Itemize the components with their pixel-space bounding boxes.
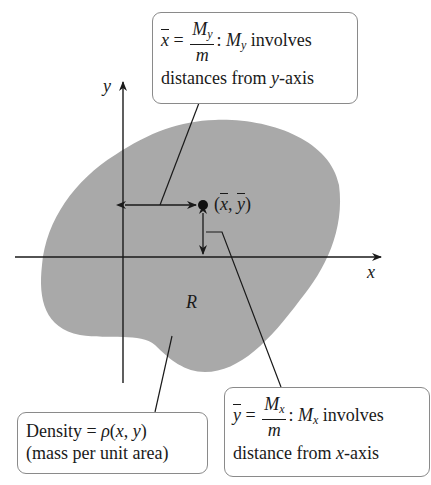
xbar-description: distances from y-axis bbox=[161, 67, 349, 89]
ybar-callout: y = Mx m : Mx involves distance from x-a… bbox=[224, 387, 430, 477]
mass-symbol: m bbox=[262, 420, 286, 440]
comma: , bbox=[124, 421, 133, 441]
density-callout: Density = ρ(x, y) (mass per unit area) bbox=[17, 412, 208, 474]
region-label: R bbox=[186, 292, 197, 313]
ybar-description: distance from x-axis bbox=[233, 442, 421, 464]
desc-var: y bbox=[271, 68, 279, 88]
involves-text: involves bbox=[318, 405, 384, 425]
centroid-point bbox=[198, 200, 208, 210]
xbar-formula: x = My m : My involves bbox=[161, 19, 349, 65]
y-axis-label: y bbox=[103, 76, 111, 97]
moment-symbol: M bbox=[192, 19, 207, 39]
xbar-callout: x = My m : My involves distances from y-… bbox=[152, 12, 358, 104]
equals-sign: = bbox=[246, 405, 256, 425]
density-description: (mass per unit area) bbox=[26, 442, 199, 464]
moment-subscript: y bbox=[207, 27, 212, 41]
desc-text: -axis bbox=[279, 68, 314, 88]
mass-symbol: m bbox=[190, 45, 214, 65]
desc-text: distance from bbox=[233, 443, 336, 463]
centroid-label: (x, y) bbox=[214, 194, 251, 215]
xbar-fraction: My m bbox=[190, 19, 214, 65]
moment-symbol: M bbox=[298, 405, 313, 425]
moment-subscript: x bbox=[279, 402, 284, 416]
moment-symbol: M bbox=[226, 30, 241, 50]
ybar-fraction: Mx m bbox=[262, 394, 286, 440]
desc-text: distances from bbox=[161, 68, 271, 88]
centroid-y: y bbox=[237, 194, 245, 214]
var-x: x bbox=[116, 421, 124, 441]
moment-symbol: M bbox=[264, 394, 279, 414]
density-formula: Density = ρ(x, y) bbox=[26, 420, 199, 442]
paren: ) bbox=[141, 421, 147, 441]
ybar-symbol: y bbox=[233, 405, 241, 425]
xbar-symbol: x bbox=[161, 30, 169, 50]
x-axis-label: x bbox=[367, 262, 375, 283]
equals-sign: = bbox=[174, 30, 184, 50]
involves-text: involves bbox=[246, 30, 312, 50]
density-text: Density = bbox=[26, 421, 101, 441]
centroid-x: x bbox=[220, 194, 228, 214]
rho-symbol: ρ bbox=[101, 421, 110, 441]
ybar-formula: y = Mx m : Mx involves bbox=[233, 394, 421, 440]
var-y: y bbox=[133, 421, 141, 441]
desc-text: -axis bbox=[344, 443, 379, 463]
region-r bbox=[41, 120, 340, 372]
desc-var: x bbox=[336, 443, 344, 463]
